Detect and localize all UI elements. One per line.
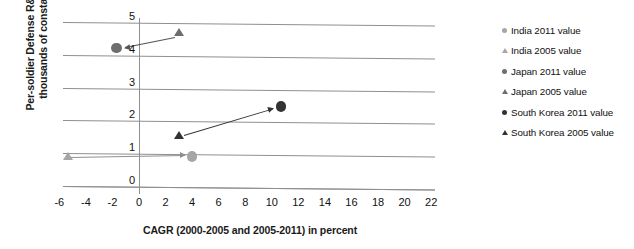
y-tick-3: 3 [113, 76, 135, 88]
legend-item-label: India 2005 value [511, 45, 581, 56]
legend-marker-glyph [502, 110, 507, 115]
legend-triangle-icon [498, 48, 511, 53]
scatter-chart-figure: Per-soldier Defense R&D spending (in tho… [0, 0, 634, 249]
legend-triangle-icon [498, 89, 511, 94]
x-tick-22: 22 [420, 196, 442, 208]
x-axis-title: CAGR (2000-2005 and 2005-2011) in percen… [60, 224, 440, 236]
x-tick-0: 0 [128, 196, 150, 208]
x-tick-20: 20 [394, 196, 416, 208]
chart-legend: India 2011 valueIndia 2005 valueJapan 20… [498, 20, 632, 143]
x-tick-14: 14 [314, 196, 336, 208]
india-arrow-shaft [69, 155, 185, 158]
legend-item-label: South Korea 2011 value [511, 107, 613, 118]
y-axis-title-line1: Per-soldier Defense R&D spending (in [24, 0, 37, 117]
y-tick-0: 0 [113, 174, 135, 186]
legend-marker-glyph [502, 28, 507, 33]
legend-item-south-korea-2005-value[interactable]: South Korea 2005 value [498, 123, 632, 144]
legend-item-label: Japan 2011 value [511, 66, 586, 77]
legend-marker-glyph [502, 89, 508, 94]
x-tick-18: 18 [367, 196, 389, 208]
data-point-south-korea-2011-value [276, 101, 286, 111]
y-tick-4: 4 [113, 43, 135, 55]
legend-item-south-korea-2011-value[interactable]: South Korea 2011 value [498, 102, 632, 123]
india-arrow [69, 155, 185, 158]
legend-item-label: India 2011 value [511, 25, 581, 36]
india-arrow-head [179, 152, 185, 158]
gridline-y-4 [63, 55, 435, 60]
x-tick-10: 10 [261, 196, 283, 208]
x-tick--4: -4 [75, 196, 97, 208]
legend-item-label: South Korea 2005 value [511, 127, 614, 138]
legend-item-india-2005-value[interactable]: India 2005 value [498, 41, 632, 62]
x-tick-8: 8 [234, 196, 256, 208]
legend-circle-icon [498, 110, 511, 115]
y-tick-2: 2 [113, 108, 135, 120]
gridline-y-2 [63, 120, 435, 125]
x-tick--2: -2 [101, 196, 123, 208]
legend-marker-glyph [502, 48, 508, 53]
legend-marker-glyph [502, 130, 508, 135]
x-tick-4: 4 [181, 196, 203, 208]
legend-marker-glyph [502, 69, 507, 74]
data-point-japan-2005-value [174, 28, 184, 36]
data-point-india-2005-value [63, 152, 73, 160]
legend-item-label: Japan 2005 value [511, 86, 587, 97]
legend-circle-icon [498, 28, 511, 33]
data-point-south-korea-2005-value [174, 131, 184, 139]
gridline-y-5 [63, 22, 435, 27]
y-tick-5: 5 [113, 10, 135, 22]
gridline-y-3 [63, 88, 435, 93]
y-axis-title: Per-soldier Defense R&D spending (in tho… [24, 0, 49, 117]
south-korea-arrow-head [267, 105, 274, 112]
legend-triangle-icon [498, 130, 511, 135]
x-tick-16: 16 [340, 196, 362, 208]
y-tick-1: 1 [113, 141, 135, 153]
data-point-india-2011-value [187, 151, 197, 161]
legend-circle-icon [498, 69, 511, 74]
legend-item-japan-2011-value[interactable]: Japan 2011 value [498, 61, 632, 82]
x-tick-2: 2 [155, 196, 177, 208]
x-tick--6: -6 [48, 196, 70, 208]
x-tick-6: 6 [208, 196, 230, 208]
legend-item-japan-2005-value[interactable]: Japan 2005 value [498, 82, 632, 103]
x-tick-12: 12 [287, 196, 309, 208]
x-axis-line [63, 186, 435, 191]
legend-item-india-2011-value[interactable]: India 2011 value [498, 20, 632, 41]
y-axis-title-line2: thousands of constant 2011 US$) [36, 0, 49, 117]
